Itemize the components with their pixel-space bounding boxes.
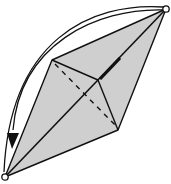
- bottom-left-corner-marker: [2, 174, 8, 180]
- top-right-corner-marker: [163, 6, 169, 12]
- fold-diagram-svg: [0, 0, 171, 184]
- origami-diagram: [0, 0, 171, 184]
- main-diagonal: [5, 9, 166, 177]
